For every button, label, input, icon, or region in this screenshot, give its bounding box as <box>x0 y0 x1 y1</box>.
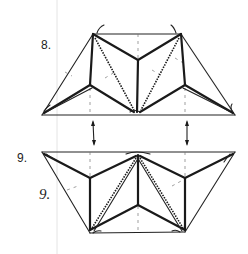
left-flip-arrow-icon <box>91 120 96 146</box>
step-9-label: 9. <box>17 151 27 165</box>
step-8-label: 8. <box>41 38 51 52</box>
origami-diagram: 8. 9. 9. <box>0 0 248 254</box>
step-9-handwritten-annotation: 9. <box>39 186 50 203</box>
step-8-figure <box>42 25 235 115</box>
step-9-figure <box>42 152 235 233</box>
diagram-drawing <box>0 0 248 254</box>
right-flip-arrow-icon <box>185 120 189 146</box>
